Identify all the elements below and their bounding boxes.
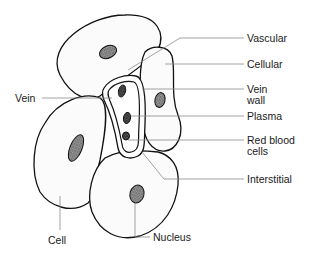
label-nucleus: Nucleus: [153, 231, 191, 243]
cell-bottom: [90, 151, 179, 238]
vein: [103, 76, 146, 158]
fluid-compartments-diagram: Vascular Cellular Vein wall Plasma Red b…: [0, 0, 312, 259]
label-cell: Cell: [48, 234, 66, 246]
label-cellular: Cellular: [247, 58, 283, 70]
label-red-blood-cells-line2: cells: [247, 145, 268, 157]
label-vein-wall-line2: wall: [246, 94, 265, 106]
label-interstitial: Interstitial: [247, 173, 292, 185]
red-blood-cell: [123, 132, 130, 140]
label-vascular: Vascular: [247, 32, 288, 44]
label-plasma: Plasma: [247, 110, 282, 122]
label-vein: Vein: [15, 92, 36, 104]
cell-right: [140, 47, 181, 151]
